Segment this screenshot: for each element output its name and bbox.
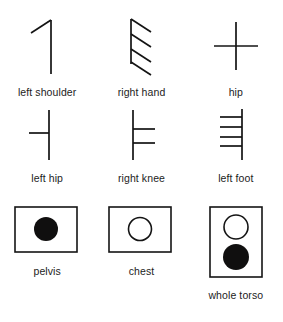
symbol-caption: right knee — [118, 172, 165, 184]
symbol-caption: chest — [129, 265, 155, 277]
symbol-caption: pelvis — [33, 265, 60, 277]
whole-torso-icon — [203, 204, 269, 280]
left-foot-icon — [206, 106, 266, 164]
right-hand-icon — [111, 16, 171, 78]
symbol-caption: left foot — [218, 172, 253, 184]
symbol-cell-chest: chest — [94, 204, 188, 306]
left-hip-icon — [17, 106, 77, 164]
symbol-caption: right hand — [118, 86, 166, 98]
symbol-caption: left hip — [31, 172, 63, 184]
chest-icon — [105, 204, 177, 256]
pelvis-icon — [11, 204, 83, 256]
symbol-caption: hip — [229, 86, 243, 98]
symbol-row-torso: pelvis chest whole torso — [0, 194, 283, 306]
symbol-cell-pelvis: pelvis — [0, 204, 94, 306]
hip-icon — [206, 16, 266, 78]
symbol-caption: whole torso — [208, 289, 263, 301]
symbol-row-lower-limbs: left hip right knee left foot — [0, 98, 283, 194]
symbol-cell-right-knee: right knee — [94, 106, 188, 194]
right-knee-icon — [111, 106, 171, 164]
symbol-cell-whole-torso: whole torso — [189, 204, 283, 306]
left-shoulder-icon — [17, 16, 77, 78]
symbol-cell-hip: hip — [189, 16, 283, 98]
symbol-row-upper-limbs: left shoulder right hand hip — [0, 0, 283, 98]
symbol-cell-left-hip: left hip — [0, 106, 94, 194]
symbol-caption: left shoulder — [18, 86, 77, 98]
symbol-cell-left-foot: left foot — [189, 106, 283, 194]
symbol-cell-left-shoulder: left shoulder — [0, 16, 94, 98]
symbol-cell-right-hand: right hand — [94, 16, 188, 98]
symbol-legend-sheet: left shoulder right hand hip — [0, 0, 283, 322]
